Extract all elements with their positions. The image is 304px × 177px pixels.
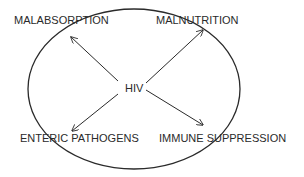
node-immune-suppression: IMMUNE SUPPRESSION xyxy=(159,133,286,144)
arrow-to-enteric-pathogens xyxy=(72,94,118,131)
diagram-canvas xyxy=(0,0,304,177)
arrow-to-malnutrition xyxy=(146,30,203,83)
node-malnutrition: MALNUTRITION xyxy=(156,15,239,26)
arrow-to-malabsorption xyxy=(71,37,118,81)
center-node-hiv: HIV xyxy=(125,83,143,94)
arrow-to-immune-suppression xyxy=(146,90,203,125)
node-malabsorption: MALABSORPTION xyxy=(14,15,109,26)
node-enteric-pathogens: ENTERIC PATHOGENS xyxy=(20,133,139,144)
